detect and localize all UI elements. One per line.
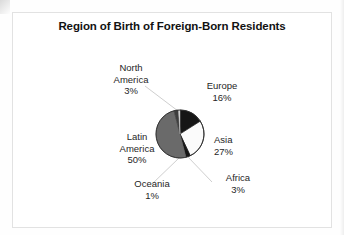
- leader-line-africa: [188, 157, 212, 182]
- pie-chart-figure: Region of Birth of Foreign-Born Resident…: [0, 0, 344, 235]
- pie-plot-area: North America 3% Europe 16% Asia 27% Afr…: [12, 12, 332, 228]
- pie-label-latin-america-line2: America: [104, 143, 170, 155]
- pie-label-north-america-pct: 3%: [100, 85, 162, 97]
- pie-label-latin-america: Latin America 50%: [104, 131, 170, 166]
- pie-label-latin-america-line1: Latin: [104, 131, 170, 143]
- pie-label-oceania-pct: 1%: [122, 190, 182, 202]
- pie-label-asia-pct: 27%: [214, 146, 258, 158]
- pie-label-north-america-line1: North: [100, 62, 162, 74]
- pie-label-asia: Asia 27%: [214, 134, 258, 157]
- pie-label-europe-line1: Europe: [194, 80, 250, 92]
- pie-label-oceania-line1: Oceania: [122, 178, 182, 190]
- scan-artifact-right-edge: [340, 0, 344, 235]
- pie-label-north-america: North America 3%: [100, 62, 162, 97]
- scan-artifact-top-left: [0, 0, 10, 14]
- pie-label-asia-line1: Asia: [214, 134, 258, 146]
- pie-label-africa-pct: 3%: [212, 184, 264, 196]
- pie-label-europe: Europe 16%: [194, 80, 250, 103]
- pie-label-north-america-line2: America: [100, 74, 162, 86]
- pie-label-oceania: Oceania 1%: [122, 178, 182, 201]
- pie-label-africa-line1: Africa: [212, 172, 264, 184]
- pie-label-latin-america-pct: 50%: [104, 154, 170, 166]
- pie-label-europe-pct: 16%: [194, 92, 250, 104]
- pie-label-africa: Africa 3%: [212, 172, 264, 195]
